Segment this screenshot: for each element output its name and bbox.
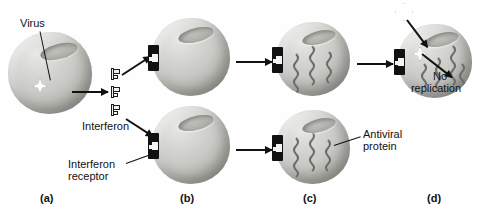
panel-label-b: (b) bbox=[180, 192, 194, 204]
panel-label-d: (d) bbox=[427, 192, 441, 204]
interferon-receptor-icon bbox=[394, 49, 405, 75]
receptor-binding-slot bbox=[151, 53, 159, 63]
interferon-pathway-figure: Virus Interferon Interferon receptor bbox=[0, 0, 477, 214]
antiviral-protein-label-line2: protein bbox=[363, 140, 397, 153]
interferon-receptor-icon bbox=[272, 135, 283, 161]
interferon-receptor-label-line2: receptor bbox=[68, 170, 108, 183]
interferon-foot bbox=[114, 93, 118, 97]
no-replication-label-line1: No bbox=[410, 70, 470, 82]
arrow-interferon-to-cell-b-top bbox=[121, 56, 151, 76]
interferon-foot bbox=[114, 111, 118, 115]
interferon-label: Interferon bbox=[82, 120, 129, 133]
interferon-receptor-icon bbox=[148, 133, 159, 159]
interferon-receptor-icon bbox=[148, 45, 159, 71]
interferon-head bbox=[114, 69, 120, 74]
receptor-binding-slot bbox=[151, 141, 159, 151]
arrow-c-to-d bbox=[357, 63, 393, 65]
interferon-foot bbox=[114, 75, 118, 79]
no-replication-label-line2: replication bbox=[396, 82, 476, 94]
interferon-head bbox=[114, 105, 120, 110]
arrow-b-to-c-top bbox=[236, 61, 272, 63]
receptor-binding-slot bbox=[397, 57, 405, 67]
antiviral-protein-label-line1: Antiviral bbox=[363, 128, 402, 141]
interferon-molecule-icon bbox=[111, 104, 120, 116]
interferon-receptor-label-line1: Interferon bbox=[68, 158, 115, 171]
interferon-receptor-icon bbox=[272, 47, 283, 73]
virus-star-icon bbox=[395, 3, 413, 21]
infected-cell-panel-a bbox=[8, 32, 92, 114]
panel-label-c: (c) bbox=[303, 192, 316, 204]
panel-label-a: (a) bbox=[40, 192, 53, 204]
interferon-molecule-icon bbox=[111, 86, 120, 98]
arrow-a-to-interferon bbox=[72, 91, 108, 93]
interferon-head bbox=[114, 87, 120, 92]
arrow-b-to-c-bottom bbox=[236, 149, 272, 151]
interferon-molecule-icon bbox=[111, 68, 120, 80]
virus-label: Virus bbox=[20, 17, 45, 30]
receptor-binding-slot bbox=[275, 143, 283, 153]
receptor-binding-slot bbox=[275, 55, 283, 65]
